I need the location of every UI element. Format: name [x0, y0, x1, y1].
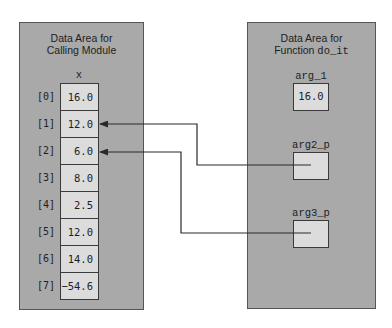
array-cell-2: 6.0: [60, 137, 99, 165]
function-title-prefix: Function: [274, 44, 317, 56]
arg2p-label: arg2_p: [281, 139, 341, 151]
array-index: [0]: [25, 91, 55, 102]
array-cell-4: 2.5: [60, 191, 99, 219]
array-index: [6]: [25, 253, 55, 264]
array-cell-5: 12.0: [60, 218, 99, 246]
array-index: [7]: [25, 280, 55, 291]
arg1-box: 16.0: [293, 83, 329, 111]
function-title: Data Area for Function do_it: [248, 32, 375, 57]
array-cell-7: −54.6: [60, 272, 99, 300]
array-cell-3: 8.0: [60, 164, 99, 192]
array-index: [3]: [25, 172, 55, 183]
calling-module-title: Data Area for Calling Module: [20, 32, 143, 56]
calling-module-title-line2: Calling Module: [20, 44, 143, 56]
function-title-line1: Data Area for: [248, 32, 375, 44]
array-index: [5]: [25, 226, 55, 237]
arg2p-box: [293, 152, 329, 180]
array-index: [4]: [25, 199, 55, 210]
function-title-line2: Function do_it: [248, 44, 375, 57]
array-index: [2]: [25, 145, 55, 156]
arg1-label: arg_1: [281, 70, 341, 82]
array-cell-6: 14.0: [60, 245, 99, 273]
arg3p-box: [293, 220, 329, 248]
array-name-label: x: [60, 69, 98, 81]
array-cell-1: 12.0: [60, 110, 99, 138]
function-name-code: do_it: [317, 45, 349, 57]
array-cell-0: 16.0: [60, 83, 99, 111]
array-index: [1]: [25, 118, 55, 129]
arg3p-label: arg3_p: [281, 207, 341, 219]
calling-module-title-line1: Data Area for: [20, 32, 143, 44]
